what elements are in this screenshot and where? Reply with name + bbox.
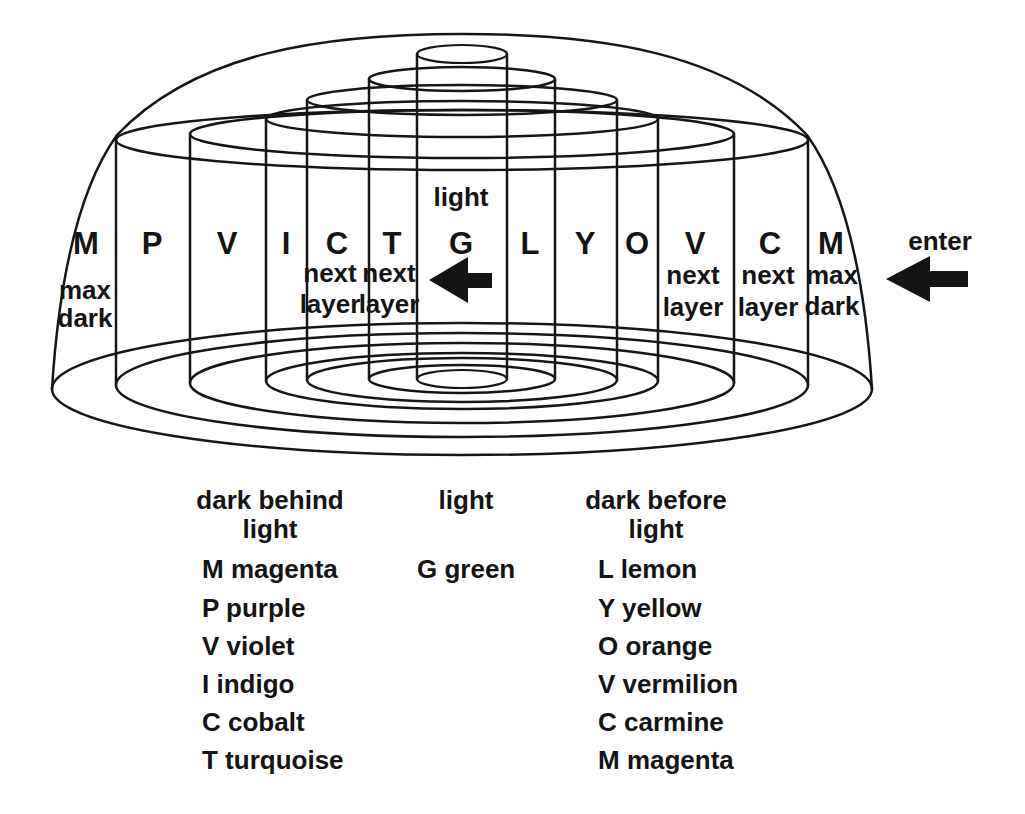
next-label-right-outer: next [741,260,795,290]
legend-middle-column: light G green [417,485,515,584]
legend-right-item-lemon: L lemon [598,554,697,584]
legend-left-item-indigo: I indigo [202,669,294,699]
legend-right-header-line1: dark before [585,485,727,515]
legend-middle-header: light [439,485,494,515]
max-label-right: max [806,260,859,290]
layer-label-left-inner: layer [359,289,420,319]
legend-right-item-magenta: M magenta [598,745,734,775]
legend-left-item-cobalt: C cobalt [202,707,305,737]
legend-left-item-magenta: M magenta [202,554,338,584]
legend-right-header-line2: light [629,514,684,544]
dark-label-left: dark [58,303,113,333]
layer-letter-5: C [326,226,348,261]
legend-right-item-orange: O orange [598,631,712,661]
cylinder-5-bottom-ellipse [190,343,734,423]
layer-letter-9: Y [575,226,596,261]
legend-left-header-line1: dark behind [196,485,343,515]
legend: dark behind light M magenta P purple V v… [196,485,738,775]
legend-right-item-carmine: C carmine [598,707,724,737]
layer-letter-7: G [449,226,473,261]
cylinder-1-top-ellipse [417,45,507,63]
color-dome-diagram: M P V I C T G L Y O V C M light max dark… [0,0,1025,814]
legend-left-item-purple: P purple [202,593,306,623]
layer-letter-3: V [217,226,238,261]
cylinder-6-bottom-ellipse [116,333,808,437]
next-label-left-inner: next [362,258,416,288]
layer-letter-6: T [383,226,402,261]
enter-label: enter [908,226,972,256]
legend-right-column: dark before light L lemon Y yellow O ora… [585,485,738,775]
legend-left-item-violet: V violet [202,631,295,661]
inward-arrow-icon [429,257,492,303]
cylinder-1-bottom-ellipse [417,370,507,388]
next-label-left-outer: next [303,258,357,288]
cylinder-1-innermost [417,45,507,388]
layer-label-left-outer: layer [300,289,361,319]
legend-left-item-turquoise: T turquoise [202,745,344,775]
cylinder-2-top-ellipse [369,67,555,91]
layer-letters: M P V I C T G L Y O V C M [73,226,844,261]
dark-label-right: dark [805,291,860,321]
layer-letter-1: M [73,226,99,261]
cylinder-4-bottom-ellipse [266,353,658,409]
cylinder-5-top-ellipse [190,110,734,158]
layer-letter-4: I [282,226,291,261]
enter-arrow-icon [886,256,968,302]
layer-letter-10: O [625,226,649,261]
legend-right-item-vermilion: V vermilion [598,669,738,699]
layer-letter-11: V [685,226,706,261]
next-label-right-inner: next [666,260,720,290]
layer-letter-12: C [759,226,781,261]
layer-letter-8: L [521,226,540,261]
max-label-left: max [59,275,112,305]
layer-label-right-inner: layer [663,292,724,322]
layer-letter-13: M [818,226,844,261]
legend-left-header-line2: light [243,514,298,544]
layer-letter-2: P [142,226,163,261]
legend-right-item-yellow: Y yellow [598,593,702,623]
layer-label-right-outer: layer [738,292,799,322]
legend-middle-item-green: G green [417,554,515,584]
legend-left-column: dark behind light M magenta P purple V v… [196,485,343,775]
light-label-top: light [434,182,489,212]
cylinder-6-top-ellipse [116,110,808,170]
color-dome-figure: M P V I C T G L Y O V C M light max dark… [0,0,1025,814]
